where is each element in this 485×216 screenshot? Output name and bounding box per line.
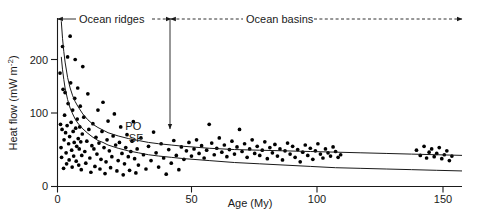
data-point xyxy=(316,142,320,146)
data-point xyxy=(144,167,148,171)
data-point xyxy=(185,149,189,153)
data-point xyxy=(255,144,259,148)
data-point xyxy=(84,161,88,165)
data-point xyxy=(147,144,151,148)
x-tick-label-50: 50 xyxy=(185,193,197,205)
data-point xyxy=(80,132,84,136)
data-point xyxy=(60,155,64,159)
data-point xyxy=(69,120,73,124)
data-point xyxy=(238,128,242,132)
data-point xyxy=(76,137,80,141)
heat-flow-vs-age-figure: Ocean ridges Ocean basins 0 100 xyxy=(0,0,485,216)
data-point xyxy=(134,171,138,175)
data-point xyxy=(137,163,141,167)
data-point xyxy=(258,154,262,158)
data-point xyxy=(65,162,69,166)
data-point xyxy=(331,145,335,149)
data-point xyxy=(83,150,87,154)
data-point xyxy=(135,147,139,151)
curve-label-sf: SF xyxy=(129,132,143,144)
data-point xyxy=(263,140,267,144)
data-point xyxy=(113,112,117,116)
data-point xyxy=(329,154,333,158)
data-point xyxy=(81,65,85,69)
y-axis-title-main: Heat flow (mW m xyxy=(7,66,19,150)
data-point xyxy=(311,157,315,161)
data-point xyxy=(286,141,290,145)
data-point xyxy=(79,140,83,144)
x-tick-label-100: 100 xyxy=(308,193,326,205)
data-point xyxy=(68,135,72,139)
data-point xyxy=(123,162,127,166)
curve-label-po: PO xyxy=(125,120,141,132)
data-point xyxy=(308,146,312,150)
data-point xyxy=(230,139,234,143)
data-point xyxy=(88,156,92,160)
data-point xyxy=(303,143,307,147)
data-point xyxy=(197,152,201,156)
data-point xyxy=(73,58,77,62)
data-point xyxy=(79,168,83,172)
data-point xyxy=(58,71,62,75)
data-point xyxy=(177,168,181,172)
data-point xyxy=(298,160,302,164)
data-point xyxy=(149,159,153,163)
data-point xyxy=(200,144,204,148)
data-point xyxy=(133,157,137,161)
data-point xyxy=(92,147,96,151)
data-point xyxy=(448,159,452,163)
data-point xyxy=(271,151,275,155)
data-point xyxy=(207,122,211,126)
data-point xyxy=(205,148,209,152)
data-point xyxy=(77,147,81,151)
data-point xyxy=(157,165,161,169)
axes-group: 0 100 200 0 50 100 150 Age (My) Heat flo… xyxy=(6,18,462,209)
data-point xyxy=(174,154,178,158)
data-point xyxy=(63,113,67,117)
data-point xyxy=(87,128,91,132)
data-point xyxy=(120,152,124,156)
data-point xyxy=(432,155,436,159)
data-point xyxy=(62,138,66,142)
data-point xyxy=(437,146,441,150)
data-point xyxy=(195,138,199,142)
y-tick-label-100: 100 xyxy=(30,107,48,119)
data-point xyxy=(114,143,118,147)
data-point xyxy=(235,145,239,149)
data-point xyxy=(104,160,108,164)
data-point xyxy=(70,165,74,169)
data-point xyxy=(265,157,269,161)
data-point xyxy=(154,151,158,155)
data-point xyxy=(167,148,171,152)
data-point xyxy=(225,155,229,159)
data-point xyxy=(126,155,130,159)
y-tick-label-200: 200 xyxy=(30,54,48,66)
scatter-points-layer xyxy=(58,34,454,176)
data-point xyxy=(106,119,110,123)
ocean-basins-label: Ocean basins xyxy=(246,13,314,25)
data-point xyxy=(319,152,323,156)
data-point xyxy=(202,156,206,160)
data-point xyxy=(223,143,227,147)
data-point xyxy=(152,130,156,134)
data-point xyxy=(101,100,105,104)
data-point xyxy=(86,92,90,96)
data-point xyxy=(62,167,66,171)
data-point xyxy=(291,144,295,148)
data-point xyxy=(77,163,81,167)
data-point xyxy=(293,155,297,159)
data-point xyxy=(425,156,429,160)
data-point xyxy=(74,126,78,130)
data-point xyxy=(67,142,71,146)
data-point xyxy=(339,153,343,157)
data-point xyxy=(93,165,97,169)
data-point xyxy=(109,166,113,170)
data-point xyxy=(440,157,444,161)
data-point xyxy=(80,154,84,158)
data-point xyxy=(182,157,186,161)
data-point xyxy=(220,150,224,154)
data-point xyxy=(68,34,72,38)
data-point xyxy=(65,124,69,128)
data-point xyxy=(245,155,249,159)
data-point xyxy=(72,154,76,158)
